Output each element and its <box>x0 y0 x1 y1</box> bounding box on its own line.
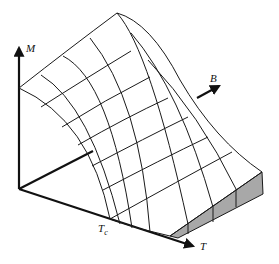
b-axis-label: B <box>210 72 217 84</box>
b-axis-back <box>19 151 93 189</box>
t-axis <box>19 189 193 246</box>
axes <box>19 48 219 246</box>
diagram-canvas <box>0 0 279 264</box>
b-axis-arrow <box>197 86 219 98</box>
m-axis-label: M <box>26 42 35 54</box>
critical-temperature-label: Tc <box>98 222 108 234</box>
magnetization-surface-diagram: M B T Tc <box>0 0 279 264</box>
t-axis-label: T <box>200 240 206 252</box>
